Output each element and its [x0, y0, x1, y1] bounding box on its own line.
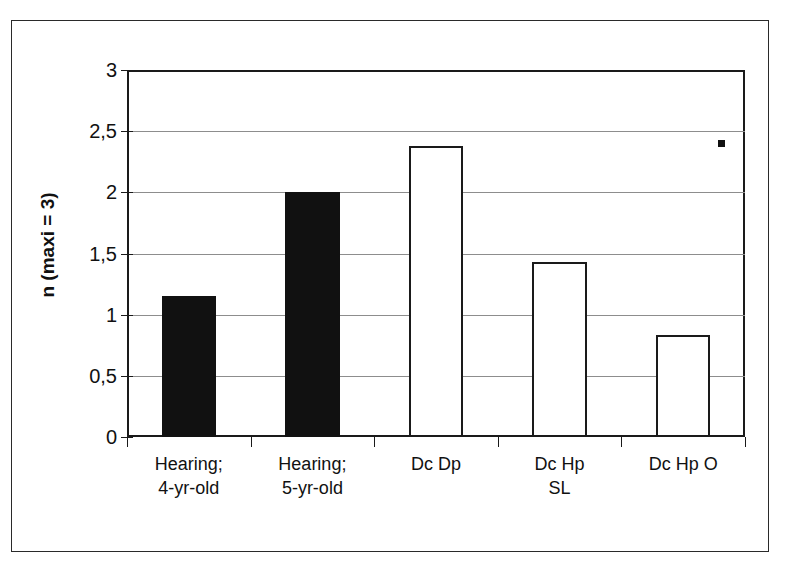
y-axis-title: n (maxi = 3) — [37, 192, 59, 297]
bar — [285, 192, 339, 437]
bar — [656, 335, 710, 437]
plot-area: 00,511,522,53 Hearing; 4-yr-oldHearing; … — [127, 70, 745, 437]
y-axis-tick — [121, 131, 133, 132]
x-axis-tick — [745, 437, 746, 447]
y-axis-tick-label: 0,5 — [89, 366, 117, 386]
y-axis-tick-label: 1 — [106, 305, 117, 325]
y-axis-tick — [121, 70, 133, 71]
x-axis-category-label: Dc Hp O — [603, 453, 763, 477]
x-axis-tick — [127, 437, 128, 447]
y-axis-tick-label: 3 — [106, 60, 117, 80]
y-axis-tick — [121, 376, 133, 377]
y-axis-tick — [121, 192, 133, 193]
y-axis-tick — [121, 254, 133, 255]
bar — [532, 262, 586, 437]
bar — [162, 296, 216, 437]
x-axis-tick — [374, 437, 375, 447]
chart-figure: n (maxi = 3) 00,511,522,53 Hearing; 4-yr… — [0, 0, 788, 567]
y-axis-tick-label: 2,5 — [89, 121, 117, 141]
x-axis-tick — [251, 437, 252, 447]
y-axis-tick-label: 0 — [106, 427, 117, 447]
gridline — [127, 131, 745, 132]
y-axis-tick — [121, 315, 133, 316]
bar — [409, 146, 463, 437]
scan-artifact-speck — [718, 140, 725, 147]
y-axis-tick-label: 1,5 — [89, 244, 117, 264]
y-axis-tick-label: 2 — [106, 182, 117, 202]
x-axis-tick — [498, 437, 499, 447]
x-axis-tick — [621, 437, 622, 447]
